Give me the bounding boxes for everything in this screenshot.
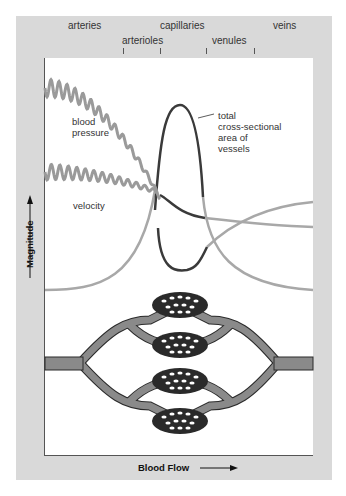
capillary-gap [177,427,182,430]
capillary-gap [193,340,198,343]
capillary-gap [185,311,190,314]
capillary-gap [189,422,194,425]
capillary-gap [169,337,174,340]
artery-trunk [45,357,83,370]
capillary-gap [185,297,190,300]
capillary-gap [173,420,178,423]
vein-trunk [274,357,313,370]
pressure-curve-arterioles [160,195,205,218]
capillary-gap [173,344,178,347]
y-axis-label: Magnitude [24,221,35,269]
capillary-gap [185,351,190,354]
vessel-network [45,292,313,434]
capillary-gap [185,387,190,390]
capillary-gap [177,412,182,415]
capillary-gap [165,346,170,349]
capillary-gap [169,351,174,354]
y-axis-arrowhead-icon [27,195,33,204]
capillary-gap [193,300,198,303]
capillary-gap [177,296,182,299]
velocity-label: velocity [73,200,105,211]
capillary-gap [177,336,182,339]
cross-section-label: total cross-sectional area of vessels [218,110,281,154]
capillary-gap [181,420,186,423]
capillary-gap [181,380,186,383]
capillary-gap [181,344,186,347]
capillary-gap [169,387,174,390]
capillary-gap [173,380,178,383]
capillary-bed [152,332,208,358]
capillary-gap [185,413,190,416]
capillary-gap [181,304,186,307]
capillary-gap [189,382,194,385]
capillary-gap [173,304,178,307]
capillary-gap [161,416,166,419]
capillary-gap [185,427,190,430]
capillary-gap [193,376,198,379]
area-curve-peak [155,105,203,210]
area-label-pointer [198,114,214,118]
capillary-gap [161,300,166,303]
area-curve-veins [203,197,313,290]
pressure-curve-veins [205,218,313,227]
capillary-gap [165,422,170,425]
capillary-gap [177,387,182,390]
capillary-gap [185,373,190,376]
capillary-bed [152,292,208,318]
blood-pressure-label: blood pressure [72,116,109,138]
capillary-gap [165,306,170,309]
x-axis-label: Blood Flow [138,462,189,473]
capillary-gap [169,413,174,416]
capillary-gap [169,297,174,300]
capillary-gap [161,340,166,343]
capillary-gap [177,311,182,314]
diagram-svg [0,0,346,496]
capillary-gap [165,382,170,385]
capillary-gap [169,311,174,314]
capillary-gap [193,416,198,419]
capillary-gap [189,306,194,309]
capillary-gap [189,346,194,349]
capillary-gap [177,372,182,375]
capillary-gap [169,373,174,376]
capillary-gap [185,337,190,340]
capillary-gap [177,351,182,354]
capillary-gap [169,427,174,430]
area-curve-trough [158,228,207,271]
capillary-gap [161,376,166,379]
capillary-bed [152,368,208,394]
blood-pressure-wave [45,80,160,199]
capillary-bed [152,408,208,434]
